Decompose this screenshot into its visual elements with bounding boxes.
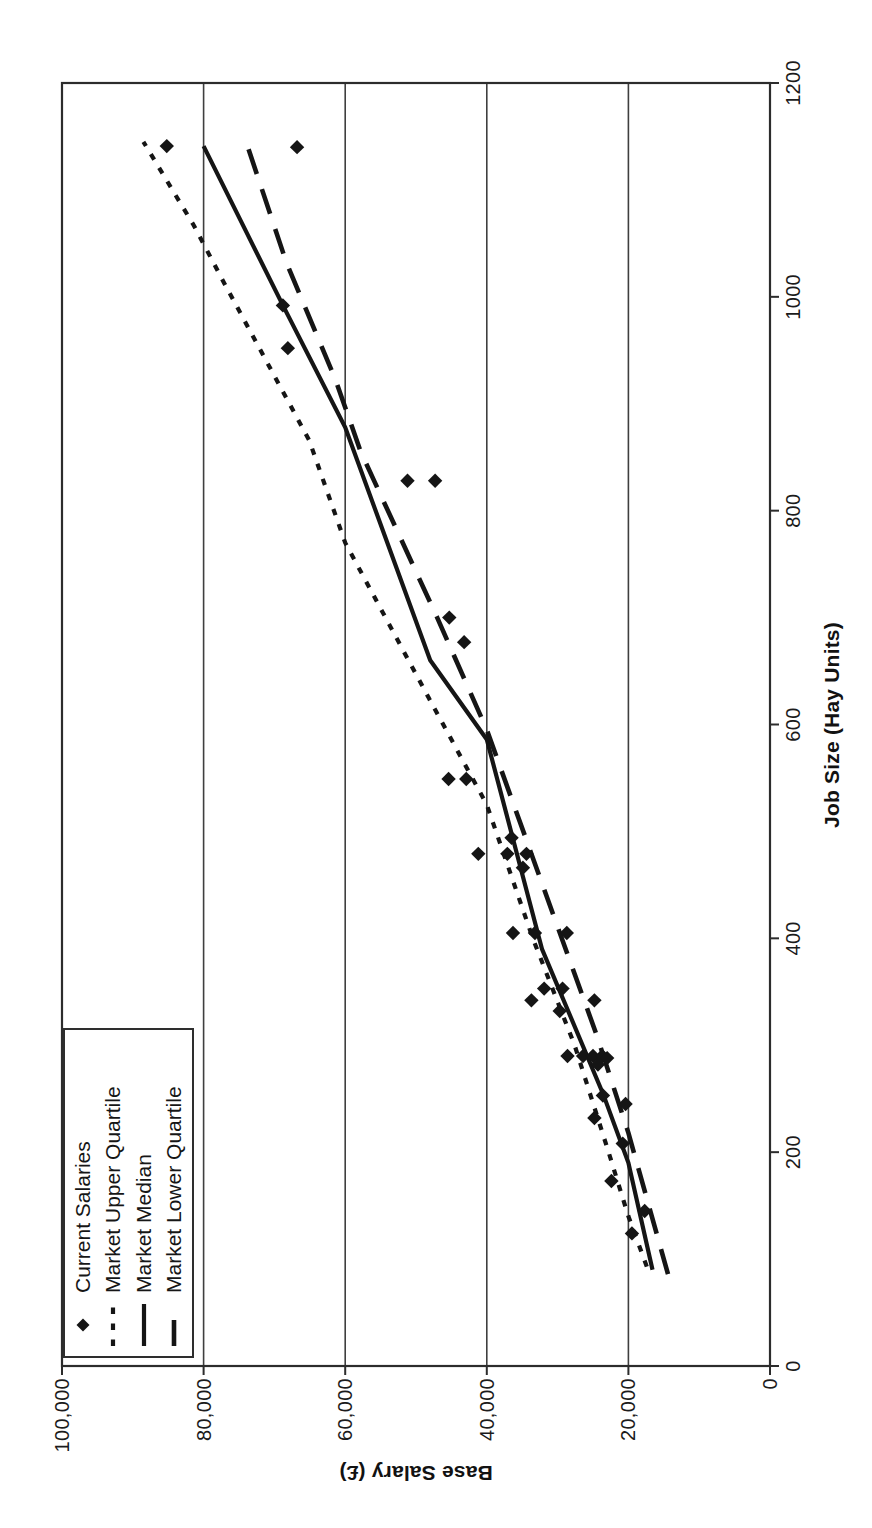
scatter-point bbox=[457, 635, 471, 649]
solid-line-icon bbox=[136, 1302, 152, 1348]
scatter-point bbox=[587, 993, 601, 1007]
legend-item: Market Upper Quartile bbox=[101, 1034, 125, 1348]
legend-item: Current Salaries bbox=[71, 1034, 95, 1348]
scatter-point bbox=[428, 474, 442, 488]
scatter-point bbox=[281, 341, 295, 355]
scatter-point bbox=[596, 1088, 610, 1102]
x-axis-title: Job Size (Hay Units) bbox=[820, 525, 844, 925]
salary-chart: Job Size (Hay Units) Base Salary (£) Cur… bbox=[0, 0, 872, 1528]
y-tick-label: 20,000 bbox=[617, 1378, 639, 1500]
y-axis-title: Base Salary (£) bbox=[339, 1461, 493, 1485]
scatter-point bbox=[587, 1111, 601, 1125]
scatter-point bbox=[276, 298, 290, 312]
x-tick-label: 400 bbox=[782, 878, 804, 998]
scatter-point bbox=[504, 831, 518, 845]
scanned-page: Job Size (Hay Units) Base Salary (£) Cur… bbox=[0, 0, 872, 1528]
y-tick-label: 80,000 bbox=[193, 1378, 215, 1500]
dotted-line-icon bbox=[105, 1302, 121, 1348]
scatter-point bbox=[604, 1174, 618, 1188]
scatter-point bbox=[625, 1226, 639, 1240]
legend-label: Current Salaries bbox=[71, 1141, 95, 1293]
legend-label: Market Upper Quartile bbox=[101, 1086, 125, 1293]
scatter-point bbox=[400, 474, 414, 488]
y-tick-label: 0 bbox=[759, 1378, 781, 1500]
legend-label: Market Lower Quartile bbox=[162, 1086, 186, 1293]
diamond-marker-icon bbox=[75, 1302, 91, 1348]
legend-item: Market Median bbox=[132, 1034, 156, 1348]
scatter-point bbox=[506, 926, 520, 940]
legend-label: Market Median bbox=[132, 1154, 156, 1293]
scatter-point bbox=[160, 139, 174, 153]
y-tick-label: 40,000 bbox=[476, 1378, 498, 1500]
y-tick-label: 60,000 bbox=[334, 1378, 356, 1500]
x-tick-label: 600 bbox=[782, 665, 804, 785]
y-tick-label: 100,000 bbox=[51, 1378, 73, 1500]
scatter-point bbox=[290, 140, 304, 154]
scatter-point bbox=[537, 981, 551, 995]
scatter-point bbox=[560, 1049, 574, 1063]
scatter-point bbox=[442, 610, 456, 624]
scatter-point bbox=[441, 772, 455, 786]
series-line-market-median bbox=[204, 146, 653, 1270]
series-line-market-upper-quartile bbox=[143, 142, 646, 1267]
scatter-point bbox=[459, 772, 473, 786]
x-tick-label: 1200 bbox=[782, 23, 804, 143]
legend-item: Market Lower Quartile bbox=[162, 1034, 186, 1348]
x-tick-label: 200 bbox=[782, 1092, 804, 1212]
scatter-point bbox=[500, 847, 514, 861]
x-tick-label: 0 bbox=[782, 1306, 804, 1426]
longdash-line-icon bbox=[166, 1302, 182, 1348]
scatter-point bbox=[524, 993, 538, 1007]
x-tick-label: 800 bbox=[782, 451, 804, 571]
scatter-point bbox=[471, 847, 485, 861]
legend-box: Current SalariesMarket Upper QuartileMar… bbox=[63, 1028, 194, 1358]
x-tick-label: 1000 bbox=[782, 237, 804, 357]
